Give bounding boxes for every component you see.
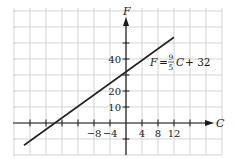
- y-tick-label: 40: [108, 54, 121, 65]
- x-axis-arrow-icon: [205, 120, 214, 126]
- y-tick-label: 10: [108, 102, 121, 113]
- x-tick-label: 8: [155, 128, 161, 139]
- y-axis-arrow-icon: [123, 17, 129, 26]
- x-axis-label: C: [216, 117, 225, 130]
- y-tick-label: 20: [108, 86, 121, 97]
- equation-equals: =: [159, 56, 168, 68]
- x-tick-label: 4: [139, 128, 145, 139]
- equation-variable: C: [176, 56, 184, 68]
- x-tick-label: 12: [168, 128, 181, 139]
- equation-denominator: 5: [169, 63, 174, 72]
- chart: −8−44812102040 C F F = 9 5 C + 32: [0, 0, 235, 159]
- y-axis-label: F: [122, 5, 131, 18]
- equation-numerator: 9: [169, 53, 174, 62]
- grid: [13, 8, 222, 155]
- equation-lhs: F: [149, 56, 158, 68]
- x-tick-label: −8: [87, 128, 102, 139]
- x-tick-label: −4: [103, 128, 118, 139]
- equation-constant: + 32: [185, 56, 211, 68]
